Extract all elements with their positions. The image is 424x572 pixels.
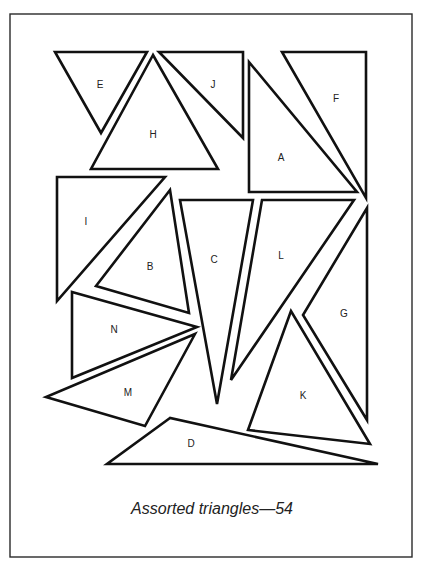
triangle-label: M xyxy=(124,387,132,398)
triangle-label: K xyxy=(300,390,307,401)
triangle-label: D xyxy=(187,438,194,449)
triangle-label: I xyxy=(85,216,88,227)
triangle-label: A xyxy=(278,152,285,163)
triangle-label: N xyxy=(110,324,117,335)
triangle-label: J xyxy=(211,79,216,90)
triangle-label: B xyxy=(147,261,154,272)
triangle-c: C xyxy=(180,200,253,404)
triangle-label: L xyxy=(278,250,284,261)
triangle-label: F xyxy=(333,93,339,104)
triangle-label: E xyxy=(97,79,104,90)
triangle-label: H xyxy=(149,129,156,140)
triangles-group: EHJAFIBCLGNMKD xyxy=(46,52,378,464)
triangle-label: G xyxy=(340,308,348,319)
triangles-figure: EHJAFIBCLGNMKD xyxy=(0,0,424,572)
triangle-label: C xyxy=(210,254,217,265)
figure-caption: Assorted triangles—54 xyxy=(0,500,424,518)
triangle-shape xyxy=(180,200,253,404)
